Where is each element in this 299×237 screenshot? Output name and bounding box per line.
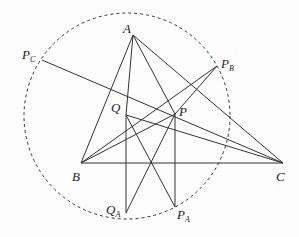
segments bbox=[42, 35, 283, 213]
point-label-PB: PB bbox=[220, 56, 234, 73]
diagram-svg: ABCPQPAQAPBPC bbox=[0, 0, 299, 237]
segment-B-PB bbox=[81, 66, 217, 163]
point-label-P: P bbox=[178, 104, 187, 119]
segment-A-P bbox=[133, 35, 175, 114]
segment-PC-C bbox=[42, 60, 283, 163]
geometry-diagram: ABCPQPAQAPBPC bbox=[0, 0, 299, 237]
point-label-A: A bbox=[122, 21, 131, 36]
segment-A-B bbox=[81, 35, 133, 163]
point-label-PA: PA bbox=[176, 207, 190, 224]
point-label-C: C bbox=[276, 169, 285, 184]
segment-Q-C bbox=[126, 115, 283, 163]
segment-A-C bbox=[133, 35, 283, 163]
point-label-Q: Q bbox=[111, 100, 121, 115]
point-label-QA: QA bbox=[106, 202, 120, 219]
segment-A-Q bbox=[126, 35, 133, 115]
segment-B-P bbox=[81, 114, 175, 163]
point-label-PC: PC bbox=[21, 47, 36, 64]
point-label-B: B bbox=[72, 169, 80, 184]
